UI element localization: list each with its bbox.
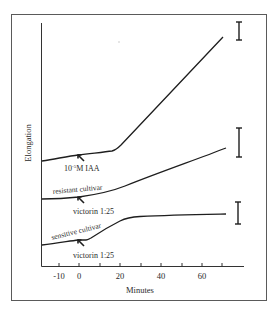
- victorin-label-sensitive: victorin 1:25: [73, 251, 114, 260]
- elongation-chart: -10 0 20 40 60 Minutes Elongation 10-5M …: [0, 0, 276, 310]
- error-bar-resistant: [236, 128, 242, 157]
- error-bar-iaa: [236, 22, 242, 40]
- arrow-icon: [78, 155, 84, 161]
- x-tick-label: 40: [157, 271, 166, 281]
- error-bar-sensitive: [235, 202, 241, 224]
- figure-frame: [12, 15, 267, 301]
- x-tick-label: 0: [77, 271, 81, 281]
- x-tick-label: 60: [198, 271, 207, 281]
- x-tick-label: -10: [53, 271, 64, 281]
- sensitive-cultivar-label: sensitive cultivar: [50, 221, 102, 242]
- x-axis-title: Minutes: [126, 285, 154, 295]
- arrow-icon: [78, 240, 84, 246]
- arrow-icon: [78, 197, 84, 203]
- victorin-label-resistant: victorin 1:25: [73, 207, 114, 216]
- y-axis-title: Elongation: [23, 124, 33, 162]
- scan-speck: [118, 41, 119, 42]
- x-axis-ticks: [59, 263, 222, 267]
- x-tick-label: 20: [116, 271, 125, 281]
- iaa-label: 10-5M IAA: [64, 164, 100, 173]
- curve-iaa: [42, 37, 223, 161]
